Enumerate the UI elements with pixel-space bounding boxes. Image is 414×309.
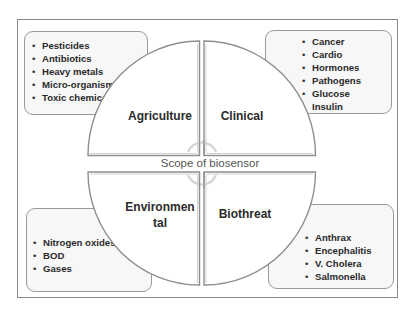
quadrant-label-agriculture: Agriculture <box>120 108 200 124</box>
quadrant-agriculture <box>88 41 200 156</box>
quadrant-clinical <box>204 41 316 156</box>
environmental-label-line2: tal <box>153 216 167 230</box>
environmental-label-line1: Environmen <box>125 200 194 214</box>
quadrant-biothreat <box>204 172 316 285</box>
diagram-title: Scope of biosensor <box>140 155 280 171</box>
quadrant-label-clinical: Clinical <box>212 108 272 124</box>
quadrant-label-environmental: Environmen tal <box>120 199 200 231</box>
quadrant-label-biothreat: Biothreat <box>210 206 280 222</box>
